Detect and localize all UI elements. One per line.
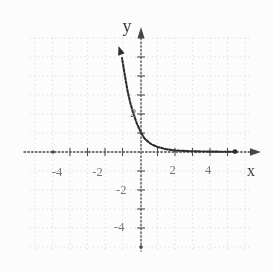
axis-labels: y x -4 -2 2 4 2 -2 -4 bbox=[52, 16, 255, 234]
x-axis-label: x bbox=[247, 162, 255, 179]
x-tick-label-2: 2 bbox=[169, 163, 175, 177]
x-tick-label-neg4: -4 bbox=[52, 165, 63, 179]
exponential-graph-figure: y x -4 -2 2 4 2 -2 -4 bbox=[0, 0, 273, 273]
x-axis-arrowhead-icon bbox=[250, 148, 261, 156]
y-axis-label: y bbox=[123, 16, 132, 36]
exponential-curve-series bbox=[118, 46, 234, 152]
y-tick-label-neg2: -2 bbox=[116, 183, 126, 197]
y-axis-arrowhead-icon bbox=[137, 27, 144, 39]
y-axis-end-dot bbox=[139, 245, 143, 249]
graph-canvas: y x -4 -2 2 4 2 -2 -4 bbox=[0, 0, 273, 273]
x-axis-end-dot bbox=[51, 150, 55, 154]
x-tick-label-4: 4 bbox=[205, 163, 212, 177]
x-tick-label-neg2: -2 bbox=[92, 165, 102, 179]
plot-area: y x -4 -2 2 4 2 -2 -4 bbox=[24, 16, 261, 251]
exponential-curve bbox=[122, 58, 235, 152]
y-tick-label-neg4: -4 bbox=[114, 220, 125, 234]
curve-arrowhead-icon bbox=[118, 46, 124, 56]
y-tick-label-2: 2 bbox=[130, 106, 136, 120]
